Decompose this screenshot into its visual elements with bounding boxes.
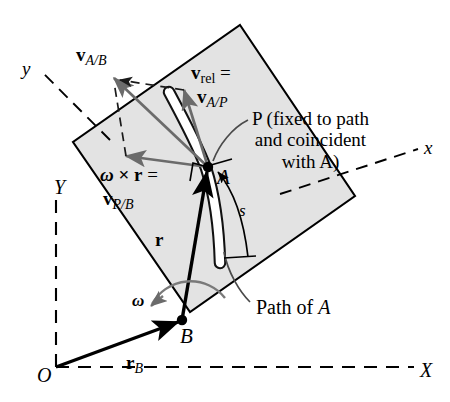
p-note-line-3: with A) — [252, 151, 369, 172]
label-omega-cross-r: ω × r = — [100, 164, 158, 185]
label-axis-X-fixed: X — [420, 359, 432, 381]
label-vector-r: r — [155, 229, 163, 250]
label-axis-x-rotating: x — [424, 137, 432, 158]
label-path-of-A: Path of A — [256, 296, 330, 318]
diagram-canvas — [0, 0, 450, 402]
p-note-line-2: and coincident — [252, 129, 369, 150]
label-v-rel: vrel = — [191, 62, 231, 87]
p-note-line-1: P (fixed to path — [252, 108, 369, 129]
label-origin-O: O — [37, 364, 51, 386]
label-vector-r-B: rB — [126, 352, 143, 377]
annotation-point-P: P (fixed to path and coincident with A) — [252, 108, 369, 172]
label-v-A-over-P: vA/P — [197, 86, 228, 111]
label-axis-y-rotating: y — [22, 58, 30, 79]
label-omega: ω — [132, 291, 144, 310]
point-A-dot — [203, 162, 213, 172]
vector-r-B — [56, 322, 178, 367]
mechanics-diagram-figure: vA/B vrel = vA/P P (fixed to path and co… — [0, 0, 450, 402]
label-point-B: B — [180, 325, 193, 349]
label-point-A: A — [217, 166, 230, 190]
label-axis-Y-fixed: Y — [54, 176, 65, 198]
label-v-P-over-B: vP/B — [103, 188, 134, 213]
label-s-distance: s — [239, 201, 246, 220]
label-v-A-over-B: vA/B — [76, 44, 107, 69]
